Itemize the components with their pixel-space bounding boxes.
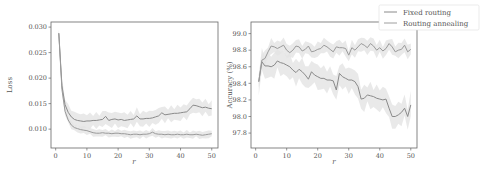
x-axis-label: r (332, 158, 336, 166)
y-tick-label: 98.2 (233, 96, 247, 104)
x-tick-label: 0 (254, 152, 258, 160)
y-axis-label: Accuracy (%) (226, 61, 234, 109)
x-axis-label: r (132, 158, 136, 166)
y-axis-label: Loss (6, 77, 14, 93)
x-tick-label: 50 (208, 152, 216, 160)
x-tick-label: 10 (83, 152, 91, 160)
x-tick-label: 30 (345, 152, 353, 160)
x-tick-label: 20 (314, 152, 322, 160)
figure: 01020304050 0.0100.0150.0200.0250.030 r … (0, 0, 482, 174)
accuracy-plot: 01020304050 97.898.098.298.498.698.899.0… (226, 22, 417, 166)
y-tick-label: 0.015 (28, 100, 47, 108)
y-tick-label: 98.8 (233, 46, 247, 54)
confidence-bands (59, 29, 212, 139)
y-tick-label: 97.8 (233, 129, 247, 137)
x-tick-label: 30 (145, 152, 153, 160)
x-tick-label: 0 (54, 152, 58, 160)
y-ticks: 97.898.098.298.498.698.899.0 (233, 30, 251, 137)
y-tick-label: 98.6 (233, 63, 247, 71)
x-tick-label: 20 (114, 152, 122, 160)
x-tick-label: 40 (176, 152, 184, 160)
confidence-bands (259, 37, 411, 129)
x-tick-label: 10 (283, 152, 291, 160)
x-tick-label: 40 (376, 152, 384, 160)
y-tick-label: 0.010 (28, 125, 47, 133)
legend: Fixed routing Routing annealing (379, 5, 479, 30)
band-0 (259, 48, 411, 130)
y-tick-label: 0.025 (28, 49, 47, 57)
y-tick-label: 98.0 (233, 113, 247, 121)
legend-label-fixed: Fixed routing (403, 9, 452, 17)
band-0 (59, 30, 212, 130)
y-tick-label: 0.030 (28, 23, 47, 31)
y-tick-label: 0.020 (28, 74, 47, 82)
x-tick-label: 50 (407, 152, 415, 160)
y-tick-label: 99.0 (233, 30, 247, 38)
y-tick-label: 98.4 (233, 80, 247, 88)
loss-plot: 01020304050 0.0100.0150.0200.0250.030 r … (6, 22, 218, 166)
y-ticks: 0.0100.0150.0200.0250.030 (28, 23, 51, 133)
legend-label-annealing: Routing annealing (403, 20, 469, 28)
